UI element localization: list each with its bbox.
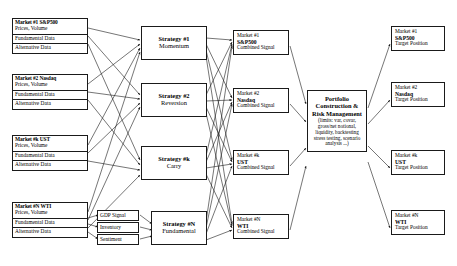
feature-label-sentiment: Sentiment bbox=[100, 237, 122, 243]
strategy-box-k[interactable]: Strategy #k Carry bbox=[141, 146, 207, 180]
source-row-k-alternative: Alternative Data bbox=[13, 161, 87, 170]
source-header-k: Market #k UST Prices, Volume bbox=[13, 136, 87, 152]
strategy-name-n: Fundamental bbox=[162, 228, 195, 235]
source-header-1: Market #1 S&P500 Prices, Volume bbox=[13, 19, 87, 35]
target-position-box-n[interactable]: Market #N WTI Target Position bbox=[391, 210, 445, 235]
target-position-box-1[interactable]: Market #1 S&P500 Target Position bbox=[391, 26, 445, 51]
feature-box-inventory[interactable]: Inventory bbox=[97, 222, 139, 233]
source-row-k-fundamental: Fundamental Data bbox=[13, 152, 87, 162]
pipeline-diagram: Market #1 S&P500 Prices, Volume Fundamen… bbox=[0, 0, 457, 266]
source-box-market-n[interactable]: Market #N WTI Prices, Volume Fundamental… bbox=[12, 202, 88, 238]
source-box-market-1[interactable]: Market #1 S&P500 Prices, Volume Fundamen… bbox=[12, 18, 88, 54]
portfolio-header: Portfolio Construction & Risk Management bbox=[311, 95, 363, 117]
target-kind-k: Target Position bbox=[395, 165, 441, 171]
source-row-2-fundamental: Fundamental Data bbox=[13, 91, 87, 101]
source-subtitle-k: Prices, Volume bbox=[15, 143, 85, 149]
source-subtitle-2: Prices, Volume bbox=[15, 82, 85, 88]
strategy-name-1: Momentum bbox=[159, 43, 189, 50]
source-row-n-alternative: Alternative Data bbox=[13, 228, 87, 237]
strategy-box-1[interactable]: Strategy #1 Momentum bbox=[141, 26, 207, 60]
strategy-name-2: Reversion bbox=[161, 100, 187, 107]
target-position-box-k[interactable]: Market #k UST Target Position bbox=[391, 150, 445, 175]
portfolio-body: (limits: var, covar, gross/net notional,… bbox=[311, 118, 363, 147]
portfolio-construction-risk-box[interactable]: Portfolio Construction & Risk Management… bbox=[307, 90, 367, 152]
combined-signal-box-1[interactable]: Market #1 S&P500 Combined Signal bbox=[233, 30, 289, 55]
strategy-box-2[interactable]: Strategy #2 Reversion bbox=[141, 83, 207, 117]
source-box-market-2[interactable]: Market #2 Nasdaq Prices, Volume Fundamen… bbox=[12, 74, 88, 110]
source-header-2: Market #2 Nasdaq Prices, Volume bbox=[13, 75, 87, 91]
feature-label-gdp: GDP Signal bbox=[100, 213, 126, 219]
signal-kind-k: Combined Signal bbox=[237, 165, 285, 171]
source-row-1-fundamental: Fundamental Data bbox=[13, 35, 87, 45]
source-row-2-alternative: Alternative Data bbox=[13, 100, 87, 109]
source-box-market-k[interactable]: Market #k UST Prices, Volume Fundamental… bbox=[12, 135, 88, 171]
target-kind-n: Target Position bbox=[395, 225, 441, 231]
source-subtitle-n: Prices, Volume bbox=[15, 210, 85, 216]
combined-signal-box-n[interactable]: Market #N WTI Combined Signal bbox=[233, 214, 289, 239]
target-kind-2: Target Position bbox=[395, 97, 441, 103]
source-row-n-fundamental: Fundamental Data bbox=[13, 219, 87, 229]
source-subtitle-1: Prices, Volume bbox=[15, 26, 85, 32]
signal-kind-2: Combined Signal bbox=[237, 103, 285, 109]
target-kind-1: Target Position bbox=[395, 41, 441, 47]
signal-kind-1: Combined Signal bbox=[237, 45, 285, 51]
source-row-1-alternative: Alternative Data bbox=[13, 44, 87, 53]
source-header-n: Market #N WTI Prices, Volume bbox=[13, 203, 87, 219]
feature-label-inventory: Inventory bbox=[100, 225, 121, 231]
feature-box-sentiment[interactable]: Sentiment bbox=[97, 234, 139, 245]
strategy-name-k: Carry bbox=[167, 163, 182, 170]
strategy-box-n[interactable]: Strategy #N Fundamental bbox=[151, 211, 207, 245]
combined-signal-box-2[interactable]: Market #2 Nasdaq Combined Signal bbox=[233, 88, 289, 113]
feature-box-gdp-signal[interactable]: GDP Signal bbox=[97, 210, 139, 221]
signal-kind-n: Combined Signal bbox=[237, 229, 285, 235]
target-position-box-2[interactable]: Market #2 Nasdaq Target Position bbox=[391, 82, 445, 107]
combined-signal-box-k[interactable]: Market #k UST Combined Signal bbox=[233, 150, 289, 175]
